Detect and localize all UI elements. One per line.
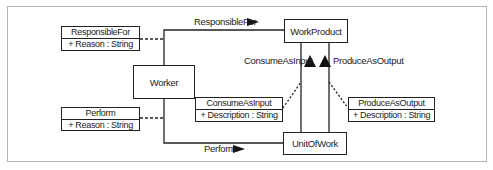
assoc-class-attribute: + Description : String [196,110,282,121]
assoc-class-name: Perform [62,108,139,120]
assoc-class-attribute: + Reason : String [62,120,139,131]
perform-label: Perform [204,143,236,154]
class-work-product[interactable]: WorkProduct [284,19,348,43]
assoc-class-attribute: + Description : String [349,110,434,121]
assoc-class-produce-as-output[interactable]: ProduceAsOutput + Description : String [348,97,435,122]
assoc-class-name: ResponsibleFor [62,27,139,39]
assoc-class-responsible-for[interactable]: ResponsibleFor + Reason : String [61,26,140,51]
class-unit-of-work[interactable]: UnitOfWork [283,132,347,155]
assoc-class-perform[interactable]: Perform + Reason : String [61,107,140,131]
produce-as-output-label: ProduceAsOutput [333,55,404,66]
class-worker[interactable]: Worker [133,65,195,99]
assoc-class-name: ProduceAsOutput [349,98,434,110]
class-work-product-name: WorkProduct [290,26,341,37]
assoc-class-attribute: + Reason : String [62,39,139,50]
class-unit-of-work-name: UnitOfWork [292,138,338,149]
assoc-class-consume-as-input[interactable]: ConsumeAsInput + Description : String [195,97,283,122]
consume-as-input-label: ConsumeAsInput [244,55,313,66]
responsible-for-label: ResponsibleFor [194,16,256,27]
class-worker-name: Worker [150,77,179,88]
assoc-class-name: ConsumeAsInput [196,98,282,110]
